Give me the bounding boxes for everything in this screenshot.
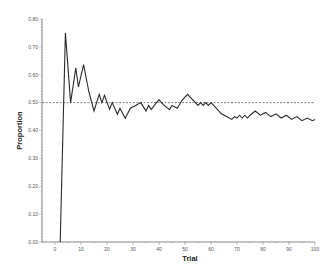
y-tick-label: 0.20: [28, 183, 38, 189]
x-tick-label: 0: [54, 246, 57, 252]
y-axis-title: Proportion: [15, 111, 24, 150]
y-tick-label: 0.80: [28, 16, 38, 22]
y-axis: 0.000.100.200.300.400.500.600.700.80: [28, 16, 42, 245]
x-tick-label: 10: [78, 246, 84, 252]
x-tick-label: 50: [182, 246, 188, 252]
y-tick-label: 0.70: [28, 44, 38, 50]
y-tick-label: 0.30: [28, 155, 38, 161]
y-tick-label: 0.50: [28, 99, 38, 105]
x-axis: 0102030405060708090100: [42, 242, 319, 252]
proportion-series-line: [60, 33, 315, 242]
y-tick-label: 0.10: [28, 211, 38, 217]
x-tick-label: 100: [311, 246, 320, 252]
x-axis-title: Trial: [182, 254, 197, 263]
y-tick-label: 0.40: [28, 127, 38, 133]
x-tick-label: 30: [130, 246, 136, 252]
x-tick-label: 60: [208, 246, 214, 252]
y-tick-label: 0.00: [28, 239, 38, 245]
x-tick-label: 20: [104, 246, 110, 252]
y-tick-label: 0.60: [28, 72, 38, 78]
x-tick-label: 70: [234, 246, 240, 252]
line-chart: 0.000.100.200.300.400.500.600.700.80 010…: [0, 0, 336, 273]
x-tick-label: 40: [156, 246, 162, 252]
x-tick-label: 80: [260, 246, 266, 252]
x-tick-label: 90: [286, 246, 292, 252]
